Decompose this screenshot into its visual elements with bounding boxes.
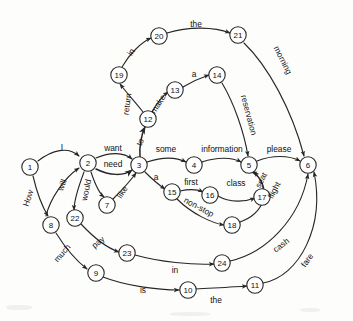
edge-label-3-4: some — [156, 144, 177, 154]
edge-label-2-22: pay — [90, 233, 107, 250]
edge-2-3-need — [96, 169, 132, 174]
edge-label-1-2: I — [61, 142, 63, 152]
graph-node-7[interactable]: 7 — [99, 197, 115, 213]
node-label: 3 — [137, 161, 142, 170]
edge-5-6 — [257, 157, 300, 162]
graph-node-20[interactable]: 20 — [151, 28, 167, 44]
edge-label-2-3: need — [104, 159, 123, 169]
graph-node-6[interactable]: 6 — [300, 157, 316, 173]
graph-node-21[interactable]: 21 — [230, 27, 246, 43]
edge-23-24 — [135, 255, 214, 264]
node-label: 11 — [251, 281, 260, 290]
diagram-canvas: 123456789101112131415161718192021222324 … — [0, 0, 353, 321]
scan-artifact — [6, 305, 32, 310]
node-label: 21 — [234, 31, 243, 40]
graph-node-11[interactable]: 11 — [247, 277, 263, 293]
edge-label-3-15: a — [154, 172, 159, 182]
edge-15-16 — [180, 190, 203, 192]
edge-label-10-11: the — [210, 295, 222, 305]
edge-label-11-6: fare — [299, 251, 316, 269]
node-label: 9 — [94, 269, 99, 278]
edge-label-21-6: morning — [272, 44, 295, 76]
node-label: 18 — [228, 221, 237, 230]
graph-node-23[interactable]: 23 — [119, 245, 135, 261]
edge-label-23-24: in — [172, 265, 179, 275]
edge-label-8-9: much — [52, 242, 73, 264]
node-label: 15 — [168, 188, 177, 197]
edge-21-6 — [244, 43, 304, 156]
graph-node-22[interactable]: 22 — [67, 210, 83, 226]
graph-node-9[interactable]: 9 — [88, 265, 104, 281]
edge-1-2 — [38, 150, 79, 161]
edge-1-8 — [33, 176, 48, 216]
edge-10-11 — [196, 286, 247, 289]
node-label: 16 — [206, 191, 215, 200]
graph-node-15[interactable]: 15 — [164, 184, 180, 200]
edge-3-4 — [147, 158, 186, 162]
graph-node-10[interactable]: 10 — [180, 282, 196, 298]
edge-label-7-3: like — [114, 184, 129, 200]
edge-4-5 — [202, 158, 241, 162]
graph-node-16[interactable]: 16 — [202, 187, 218, 203]
node-label: 13 — [171, 86, 180, 95]
node-label: 5 — [247, 161, 252, 170]
edge-label-3-12: to — [134, 137, 146, 147]
edge-16-17 — [218, 196, 255, 201]
node-label: 23 — [123, 249, 132, 258]
graph-node-18[interactable]: 18 — [224, 217, 240, 233]
graph-node-19[interactable]: 19 — [111, 67, 127, 83]
scan-artifact — [300, 308, 320, 312]
edge-label-18-5: flight — [265, 179, 282, 200]
edge-label-9-10: is — [140, 285, 146, 295]
node-label: 6 — [306, 161, 311, 170]
graph-node-13[interactable]: 13 — [167, 82, 183, 98]
scan-artifact — [170, 312, 210, 316]
graph-node-14[interactable]: 14 — [209, 67, 225, 83]
graph-node-2[interactable]: 2 — [80, 155, 96, 171]
edge-label-5-6: please — [267, 144, 292, 154]
edge-label-13-14: a — [192, 69, 197, 79]
graph-node-4[interactable]: 4 — [186, 157, 202, 173]
edge-label-15-16: first — [184, 177, 198, 187]
graph-node-1[interactable]: 1 — [22, 159, 38, 175]
node-label: 22 — [71, 214, 80, 223]
graph-node-3[interactable]: 3 — [131, 157, 147, 173]
edge-label-24-6: cash — [271, 235, 291, 254]
graph-node-24[interactable]: 24 — [214, 255, 230, 271]
edge-label-20-21: the — [190, 19, 202, 29]
edge-label-12-19: return — [121, 92, 134, 115]
node-label: 4 — [192, 161, 197, 170]
edge-label-1-8: How — [21, 188, 36, 208]
edge-label-12-13: make — [148, 92, 168, 115]
network-graph: 123456789101112131415161718192021222324 … — [0, 0, 353, 321]
edge-label-2-3: want — [103, 143, 122, 153]
edge-label-16-17: class — [226, 178, 245, 188]
node-label: 8 — [49, 221, 54, 230]
node-label: 7 — [105, 201, 110, 210]
edge-2-7 — [91, 172, 104, 197]
node-label: 1 — [28, 163, 33, 172]
node-layer: 123456789101112131415161718192021222324 — [22, 27, 316, 298]
node-label: 2 — [86, 159, 91, 168]
node-label: 12 — [144, 115, 153, 124]
edge-label-19-20: in — [125, 46, 137, 57]
node-label: 10 — [184, 286, 193, 295]
node-label: 24 — [218, 259, 227, 268]
graph-node-5[interactable]: 5 — [241, 157, 257, 173]
node-label: 14 — [213, 71, 222, 80]
node-label: 19 — [115, 71, 124, 80]
edge-label-4-5: information — [201, 144, 243, 154]
node-label: 20 — [155, 32, 164, 41]
graph-node-8[interactable]: 8 — [43, 217, 59, 233]
